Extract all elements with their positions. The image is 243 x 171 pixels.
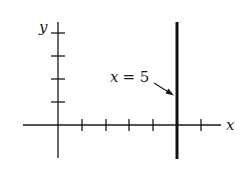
line-label-variable: x [110,68,119,86]
x-axis-label: x [226,116,235,134]
y-axis-label: y [38,18,48,36]
arrow-icon [154,83,174,96]
line-label-value: = 5 [122,68,149,86]
line-equation-label: x= 5 [110,68,149,86]
coordinate-plane: y x x= 5 [0,0,243,171]
